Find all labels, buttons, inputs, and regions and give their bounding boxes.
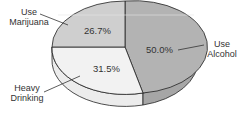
label-use-marijuana: Use Marijuana (8, 7, 50, 27)
label-use-alcohol-line1: Use (204, 39, 240, 49)
label-heavy-drinking: Heavy Drinking (8, 83, 46, 103)
label-heavy-drinking-line2: Drinking (8, 93, 46, 103)
label-use-alcohol-line2: Alcohol (204, 49, 240, 59)
label-use-marijuana-line1: Use (8, 7, 50, 17)
percent-use-alcohol: 50.0% (146, 44, 173, 55)
label-use-alcohol: Use Alcohol (204, 39, 240, 59)
slice-use-marijuana (52, 1, 125, 47)
label-heavy-drinking-line1: Heavy (8, 83, 46, 93)
percent-heavy-drinking: 31.5% (93, 63, 120, 74)
percent-use-marijuana: 26.7% (84, 25, 111, 36)
label-use-marijuana-line2: Marijuana (8, 17, 50, 27)
pie-chart: Use Marijuana Use Alcohol Heavy Drinking… (0, 0, 242, 121)
